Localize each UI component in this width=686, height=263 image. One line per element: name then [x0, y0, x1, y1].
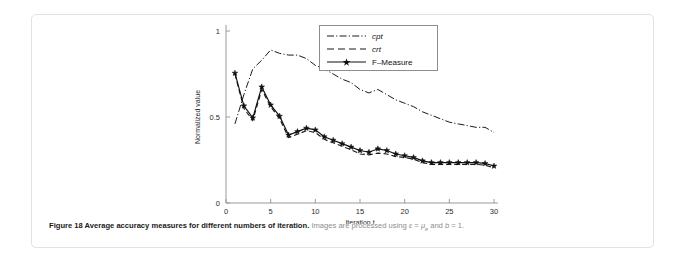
caption-body-a: Images are processed using: [311, 221, 409, 230]
x-tick-label: 30: [490, 207, 498, 216]
y-axis-title: Normalized value: [194, 90, 201, 144]
x-tick-label: 10: [311, 207, 319, 216]
x-tick-label: 5: [269, 207, 273, 216]
legend-item-cpt: cpt: [326, 29, 383, 43]
caption-equals-1: =: [412, 221, 421, 230]
legend-label-fmeasure: F–Measure: [372, 58, 412, 67]
legend-label-cpt: cpt: [372, 32, 383, 41]
data-point-marker: [304, 125, 310, 130]
data-point-marker: [384, 148, 390, 153]
series-line-crt: [235, 74, 494, 168]
data-point-marker: [295, 129, 301, 134]
data-point-marker: [375, 146, 381, 151]
chart-legend: cpt crt F–Measure: [319, 25, 438, 71]
y-tick-label: 1: [216, 27, 220, 36]
legend-label-crt: crt: [372, 45, 381, 54]
legend-swatch-dashdot: [326, 31, 367, 41]
series-line-fmeasure: [235, 73, 494, 166]
y-tick-label: 0: [216, 199, 220, 208]
x-tick-label: 25: [445, 207, 453, 216]
data-point-marker: [357, 148, 363, 153]
caption-title: Figure 18 Average accuracy measures for …: [49, 221, 309, 230]
caption-equals-2: = 1.: [449, 221, 464, 230]
legend-item-crt: crt: [326, 42, 381, 56]
y-tick-label: 0.5: [210, 113, 220, 122]
x-tick-label: 15: [356, 207, 364, 216]
legend-swatch-solid-star: [326, 57, 367, 67]
figure-card: 00.51051015202530Iteration,tNormalized v…: [31, 14, 654, 248]
figure-caption: Figure 18 Average accuracy measures for …: [49, 220, 641, 235]
x-tick-label: 20: [400, 207, 408, 216]
legend-swatch-dashed: [326, 44, 367, 54]
legend-item-fmeasure: F–Measure: [326, 55, 412, 69]
caption-body-b: and: [428, 221, 445, 230]
x-tick-label: 0: [224, 207, 228, 216]
